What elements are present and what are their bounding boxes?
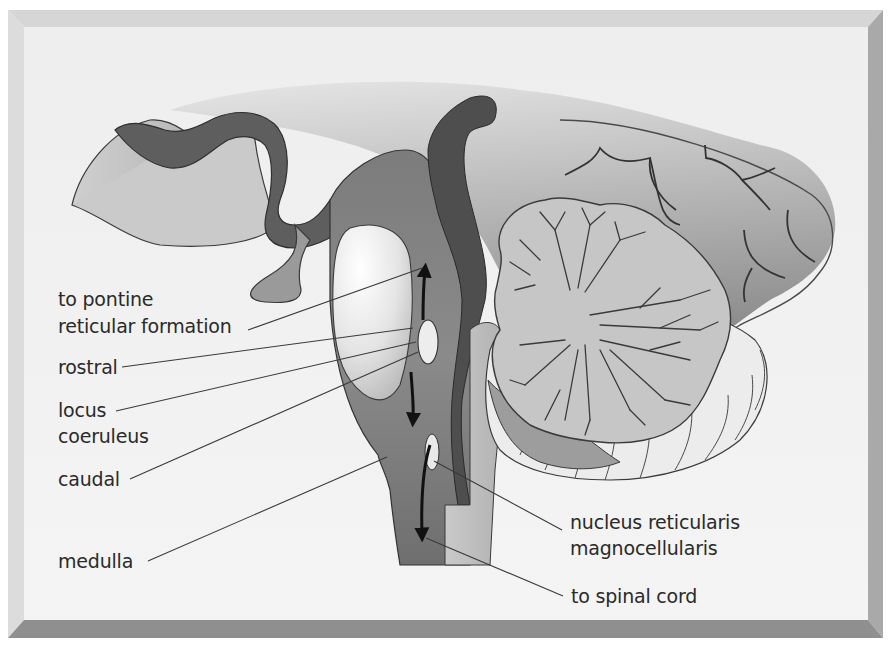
label-pontine-line1: to pontine [58,287,153,311]
label-nucleus-line2: magnocellularis [570,536,718,560]
label-spinal-cord: to spinal cord [571,584,697,608]
diagram-frame: to pontine reticular formation rostral l… [0,0,891,653]
label-pontine-line2: reticular formation [58,314,232,338]
label-caudal: caudal [58,467,120,491]
label-rostral: rostral [58,355,118,379]
label-locus-line1: locus [58,398,106,422]
locus-coeruleus-oval [418,320,438,364]
label-medulla: medulla [58,549,133,573]
label-nucleus-line1: nucleus reticularis [570,510,740,534]
label-locus-line2: coeruleus [58,424,149,448]
